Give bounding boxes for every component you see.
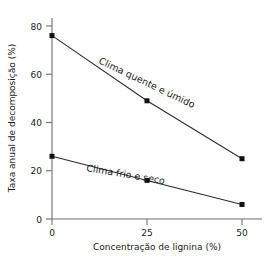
y-tick-label-60: 60 (31, 70, 43, 80)
x-tick-label-25: 25 (141, 228, 152, 238)
x-tick-label-50: 50 (236, 228, 248, 238)
y-axis-title: Taxa anual de decomposição (%) (7, 44, 17, 193)
y-tick-label-80: 80 (31, 22, 43, 32)
y-tick-label-40: 40 (31, 118, 43, 128)
data-point-warm-0 (50, 33, 55, 38)
x-axis-title: Concentração de lignina (%) (93, 242, 221, 252)
data-point-cold-50 (240, 202, 245, 207)
y-tick-label-0: 0 (36, 215, 42, 225)
data-point-warm-25 (145, 98, 150, 103)
y-tick-label-20: 20 (31, 166, 43, 176)
chart-figure: 0 20 40 60 80 0 25 50 Concentração de li… (0, 0, 274, 262)
line-chart-canvas: 0 20 40 60 80 0 25 50 Concentração de li… (0, 0, 274, 262)
data-point-cold-0 (50, 154, 55, 159)
series-line-warm-humid (52, 36, 242, 159)
series-label-cold-dry: Clima frio e seco (86, 162, 166, 186)
x-tick-label-0: 0 (49, 228, 55, 238)
data-point-warm-50 (240, 156, 245, 161)
